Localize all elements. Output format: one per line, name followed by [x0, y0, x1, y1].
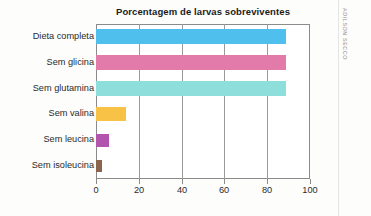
bar-row [96, 55, 310, 70]
category-label: Sem glutamina [33, 83, 94, 93]
gridline [267, 24, 268, 179]
category-label: Sem glicina [47, 57, 95, 67]
x-axis-tick-label: 0 [79, 185, 113, 195]
x-axis-tick-label: 60 [207, 185, 241, 195]
x-axis-tick-label: 80 [250, 185, 284, 195]
x-axis-tick-label: 100 [293, 185, 327, 195]
x-axis-tick [96, 179, 97, 184]
credit-text: ADILSON SECCO [342, 8, 348, 60]
category-label: Sem isoleucina [32, 160, 94, 170]
bar-row [96, 81, 310, 96]
bar[interactable] [96, 29, 286, 44]
category-label: Sem valina [49, 108, 94, 118]
category-label: Dieta completa [33, 31, 94, 41]
x-axis-tick-label: 40 [165, 185, 199, 195]
chart-title: Porcentagem de larvas sobreviventes [96, 6, 310, 17]
bar-row [96, 107, 310, 121]
x-axis-tick [182, 179, 183, 184]
x-axis-tick [224, 179, 225, 184]
x-axis-tick [139, 179, 140, 184]
credit-divider [338, 0, 339, 216]
bar[interactable] [96, 107, 126, 121]
bar-row [96, 160, 310, 172]
gridline [139, 24, 140, 179]
category-label: Sem leucina [43, 134, 94, 144]
x-axis-tick [267, 179, 268, 184]
bar-row [96, 134, 310, 147]
gridline [224, 24, 225, 179]
x-axis-tick-label: 20 [122, 185, 156, 195]
bar[interactable] [96, 81, 286, 96]
gridline [182, 24, 183, 179]
bar[interactable] [96, 134, 109, 147]
bar-row [96, 29, 310, 44]
bar[interactable] [96, 160, 102, 172]
bar[interactable] [96, 55, 286, 70]
chart-figure: Porcentagem de larvas sobreviventes Diet… [0, 0, 371, 216]
plot-area [96, 24, 310, 179]
x-axis-tick [310, 179, 311, 184]
